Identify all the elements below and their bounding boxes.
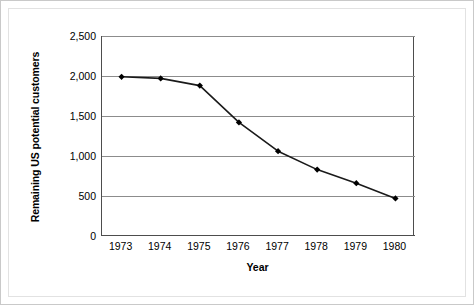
x-axis-tick-label: 1980: [371, 240, 417, 252]
chart-plot-svg: [102, 36, 415, 236]
data-point-marker: [314, 167, 320, 173]
data-point-marker: [353, 180, 359, 186]
y-axis-tick-label: 2,000: [44, 71, 96, 81]
y-axis-tick-label: 1,500: [44, 111, 96, 121]
y-axis-tick-label: 0: [44, 231, 96, 241]
x-axis-title: Year: [101, 261, 414, 273]
y-axis-tick-label: 500: [44, 191, 96, 201]
y-axis-tick-label: 2,500: [44, 31, 96, 41]
plot-area: [101, 36, 414, 236]
x-axis-tick-labels: 19731974197519761977197819791980: [101, 240, 414, 256]
data-series-line: [122, 77, 396, 199]
y-axis-tick-label: 1,000: [44, 151, 96, 161]
line-chart-figure: Remaining US potential customers 05001,0…: [0, 0, 474, 305]
y-axis-tick-labels: 05001,0001,5002,0002,500: [40, 0, 96, 305]
data-point-marker: [118, 74, 124, 80]
